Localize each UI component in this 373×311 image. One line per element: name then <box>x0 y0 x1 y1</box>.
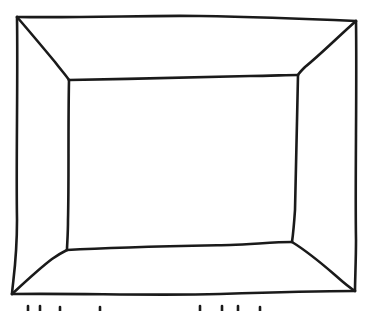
diagonal-top-left <box>17 17 69 80</box>
inner-right-edge <box>292 75 298 242</box>
diagonal-top-right <box>298 21 356 75</box>
outer-top-edge <box>17 16 356 21</box>
outer-bottom-edge <box>12 291 355 295</box>
diagonal-bottom-right <box>292 242 355 291</box>
outer-right-edge <box>355 21 356 291</box>
cropped-caption-strokes <box>28 306 260 311</box>
diagonal-bottom-left <box>12 250 67 294</box>
inner-bottom-edge <box>67 242 292 250</box>
outer-left-edge <box>12 17 17 294</box>
inner-left-edge <box>67 80 69 250</box>
inner-top-edge <box>69 75 298 80</box>
frame-diagram <box>0 0 373 311</box>
